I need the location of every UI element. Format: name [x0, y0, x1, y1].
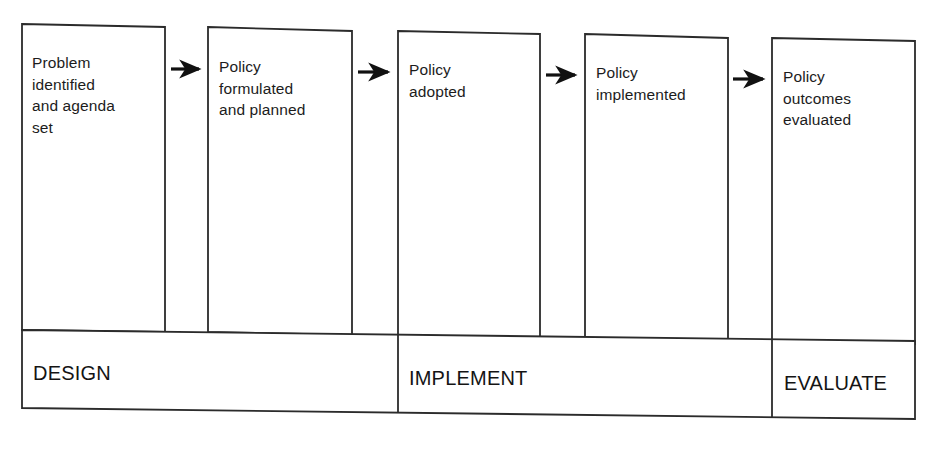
stage-box[interactable] [208, 27, 352, 335]
phase-band-outline [22, 330, 915, 419]
phase-band [22, 330, 915, 419]
stage-box[interactable] [398, 31, 540, 338]
stage-box[interactable] [772, 38, 915, 344]
stage-boxes [22, 24, 915, 344]
policy-cycle-diagram: Problem identified and agenda set Policy… [0, 0, 941, 457]
diagram-canvas [0, 0, 941, 457]
stage-box[interactable] [585, 34, 728, 341]
stage-box[interactable] [22, 24, 165, 332]
